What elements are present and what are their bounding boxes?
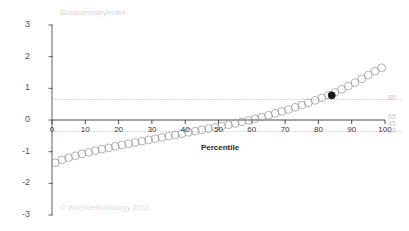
x-axis-tick-label: 0 bbox=[42, 125, 62, 134]
plot-area bbox=[0, 0, 409, 231]
y-axis-tick-label: 1 bbox=[14, 82, 30, 92]
x-axis-tick-label: 20 bbox=[109, 125, 129, 134]
x-axis-tick-label: 60 bbox=[242, 125, 262, 134]
right-axis-label: 30 bbox=[388, 127, 406, 134]
x-axis-tick-label: 30 bbox=[142, 125, 162, 134]
x-axis-title: Percentile bbox=[180, 143, 260, 152]
x-axis-tick-label: 50 bbox=[209, 125, 229, 134]
series-1 bbox=[328, 92, 335, 99]
y-axis-tick-label: 0 bbox=[14, 114, 30, 124]
right-axis-label: 80 bbox=[388, 94, 406, 101]
y-axis-tick-label: -1 bbox=[14, 146, 30, 156]
x-axis-tick-label: 10 bbox=[75, 125, 95, 134]
x-axis-tick-label: 40 bbox=[175, 125, 195, 134]
data-point bbox=[378, 64, 386, 72]
highlighted-data-point bbox=[328, 92, 335, 99]
x-axis-tick-label: 70 bbox=[275, 125, 295, 134]
y-axis-tick-label: -2 bbox=[14, 177, 30, 187]
y-axis-tick-label: -3 bbox=[14, 209, 30, 219]
y-axis-tick-label: 3 bbox=[14, 19, 30, 29]
right-axis-label: 65 bbox=[388, 113, 406, 120]
copyright-notice: © BUSMethodology 2011 bbox=[60, 203, 150, 212]
chart-container: Bussummaryindex Percentile © BUSMethodol… bbox=[0, 0, 409, 231]
y-axis-tick-label: 2 bbox=[14, 51, 30, 61]
x-axis-tick-label: 90 bbox=[342, 125, 362, 134]
x-axis-tick-label: 80 bbox=[308, 125, 328, 134]
